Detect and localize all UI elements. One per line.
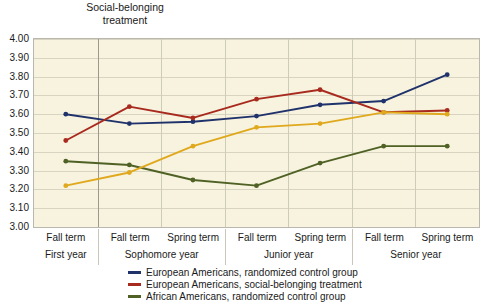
x-axis-terms: Fall termSpring term [226,229,352,246]
y-axis-tick-label: 4.00 [0,34,29,44]
y-axis-tick-label: 3.90 [0,53,29,63]
legend-label: European Americans, social-belonging tre… [146,279,362,290]
y-axis-tick-label: 3.70 [0,90,29,100]
data-point [318,121,323,126]
x-axis-year-label: First year [34,249,98,260]
chart-root: Social-belonging treatment 4.003.903.803… [0,0,488,308]
y-axis-tick-label: 3.60 [0,109,29,119]
x-axis-year-label: Senior year [353,249,479,260]
data-point [318,87,323,92]
data-point [127,104,132,109]
plot-area [33,38,480,228]
y-axis-tick-label: 3.10 [0,203,29,213]
x-axis-term-label: Fall term [99,232,162,243]
data-point [381,110,386,115]
data-point [254,114,259,119]
data-point [127,170,132,175]
data-point [254,97,259,102]
data-point [127,163,132,168]
data-point [127,121,132,126]
x-axis-year-label: Junior year [226,249,352,260]
legend-item-0: European Americans, randomized control g… [128,267,458,278]
data-point [254,125,259,130]
x-axis-group-0: Fall termFirst year [34,229,98,265]
data-point [381,99,386,104]
legend-color-swatch [128,295,141,298]
data-point [191,178,196,183]
legend-label: European Americans, randomized control g… [146,267,358,278]
data-point [445,112,450,117]
data-point [381,144,386,149]
legend-item-1: European Americans, social-belonging tre… [128,279,458,290]
y-axis-tick-label: 3.80 [0,72,29,82]
x-axis-group-3: Fall termSpring termSenior year [352,229,479,265]
x-axis-term-label: Fall term [226,232,289,243]
x-axis-term-label: Spring term [162,232,225,243]
y-axis-tick-label: 3.40 [0,147,29,157]
x-axis-group-1: Fall termSpring termSophomore year [98,229,225,265]
legend-item-2: African Americans, randomized control gr… [128,291,458,302]
y-axis-tick-label: 3.30 [0,166,29,176]
data-point [191,144,196,149]
x-axis: Fall termFirst yearFall termSpring termS… [33,229,480,265]
x-axis-group-2: Fall termSpring termJunior year [225,229,352,265]
data-point [63,112,68,117]
data-point [318,161,323,166]
series-line [66,146,447,185]
data-point [63,138,68,143]
treatment-annotation: Social-belonging treatment [50,1,200,26]
x-axis-terms: Fall termSpring term [353,229,479,246]
series-layer [34,39,479,227]
y-axis-tick-label: 3.50 [0,128,29,138]
data-point [254,183,259,188]
y-axis-tick-label: 3.20 [0,184,29,194]
y-axis-tick-label: 3.00 [0,222,29,232]
data-point [445,72,450,77]
legend-color-swatch [128,283,141,286]
x-axis-terms: Fall term [34,229,98,246]
x-axis-year-label: Sophomore year [99,249,225,260]
x-axis-term-label: Spring term [416,232,479,243]
legend-color-swatch [128,271,141,274]
chart-legend: European Americans, randomized control g… [128,267,458,303]
data-point [63,183,68,188]
x-axis-term-label: Spring term [289,232,352,243]
data-point [63,159,68,164]
data-point [318,102,323,107]
legend-label: African Americans, randomized control gr… [146,291,346,302]
series-2 [63,144,449,188]
plot-inner [34,39,479,227]
data-point [191,116,196,121]
x-axis-term-label: Fall term [34,232,98,243]
x-axis-term-label: Fall term [353,232,416,243]
data-point [445,144,450,149]
x-axis-terms: Fall termSpring term [99,229,225,246]
